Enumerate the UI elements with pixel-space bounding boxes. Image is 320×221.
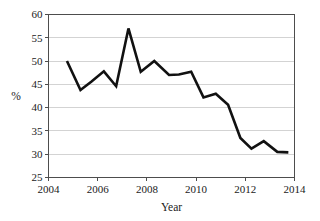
y-tick-label-35: 35 [32, 125, 44, 137]
y-tick-label-55: 55 [32, 32, 44, 44]
x-axis-title: Year [161, 201, 182, 213]
x-tick-label-2012: 2012 [234, 183, 256, 195]
y-tick-label-50: 50 [32, 55, 44, 67]
y-tick-label-60: 60 [32, 8, 44, 20]
y-tick-label-25: 25 [32, 171, 44, 183]
x-tick-label-2008: 2008 [136, 183, 159, 195]
y-tick-label-40: 40 [32, 101, 44, 113]
x-tick-label-2010: 2010 [185, 183, 208, 195]
y-axis-title: % [11, 90, 21, 102]
x-tick-label-2004: 2004 [38, 183, 61, 195]
y-tick-label-30: 30 [32, 148, 44, 160]
y-tick-label-45: 45 [32, 78, 44, 90]
chart-figure: 2530354045505560 20042006200820102012201… [0, 0, 320, 221]
line-chart: 2530354045505560 20042006200820102012201… [0, 0, 320, 221]
x-tick-label-2014: 2014 [284, 183, 307, 195]
x-tick-label-2006: 2006 [87, 183, 110, 195]
